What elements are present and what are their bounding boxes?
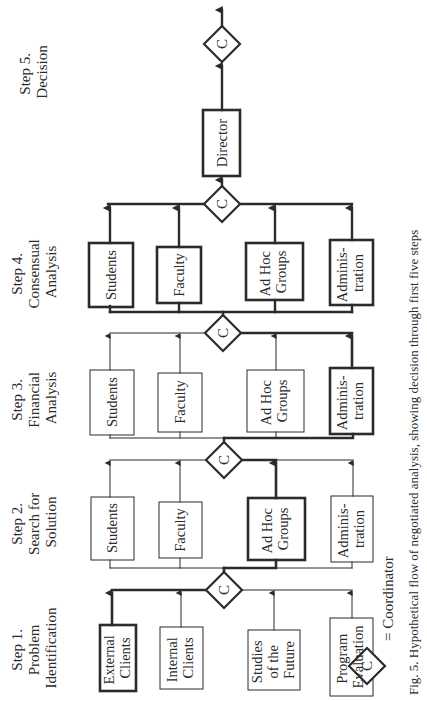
- coordinator-c-step2: C: [216, 455, 232, 465]
- label-faculty-step2: Faculty: [172, 508, 188, 552]
- step4-label: Step 4. Consensual Analysis: [9, 236, 59, 309]
- label-administration-step4: Adminis- tration: [334, 244, 366, 302]
- step2-group: [91, 442, 373, 562]
- label-internal-clients: Internal Clients: [164, 634, 196, 683]
- label-ad-hoc-groups-step2: Ad Hoc Groups: [259, 504, 291, 553]
- coordinator-c-final: C: [214, 39, 230, 49]
- step5-label: Step 5. Decision: [17, 45, 50, 99]
- diagram-svg: Step 5. Decision Step 4. Consensual Anal…: [0, 0, 427, 701]
- label-ad-hoc-groups-step4: Ad Hoc Groups: [257, 247, 289, 296]
- label-students-step4: Students: [103, 250, 119, 300]
- label-faculty-step3: Faculty: [172, 380, 188, 424]
- coordinator-c-step3: C: [215, 328, 231, 338]
- step3-label: Step 3. Financial Analysis: [9, 368, 59, 428]
- flow-diagram: Step 5. Decision Step 4. Consensual Anal…: [0, 0, 427, 701]
- label-director: Director: [214, 119, 230, 167]
- coordinator-c-step4: C: [214, 199, 230, 209]
- label-program-evaluation: Program Evaluation: [334, 625, 366, 689]
- figure-caption: Fig. 5. Hypothetical flow of negotiated …: [406, 230, 421, 695]
- step1-label: Step 1. Problem Identification: [9, 607, 59, 688]
- label-ad-hoc-groups-step3: Ad Hoc Groups: [258, 376, 290, 425]
- coordinator-c-step1: C: [216, 585, 232, 595]
- step-labels: Step 5. Decision Step 4. Consensual Anal…: [9, 45, 59, 689]
- label-administration-step3: Adminis- tration: [334, 372, 366, 430]
- label-external-clients: External Clients: [101, 632, 133, 685]
- step3-group: [90, 315, 373, 435]
- label-administration-step2: Adminis- tration: [335, 500, 367, 558]
- label-studies-of-the-future: Studies of the Future: [249, 637, 297, 683]
- step2-label: Step 2. Search for Solution: [9, 489, 59, 555]
- step1-group: [100, 572, 373, 696]
- label-students-step3: Students: [104, 377, 120, 427]
- label-faculty-step4: Faculty: [171, 253, 187, 297]
- label-students-step2: Students: [104, 503, 120, 553]
- step4-group: [89, 186, 373, 307]
- legend-c: C: [359, 661, 375, 671]
- legend-meaning: = Coordinator: [380, 556, 396, 641]
